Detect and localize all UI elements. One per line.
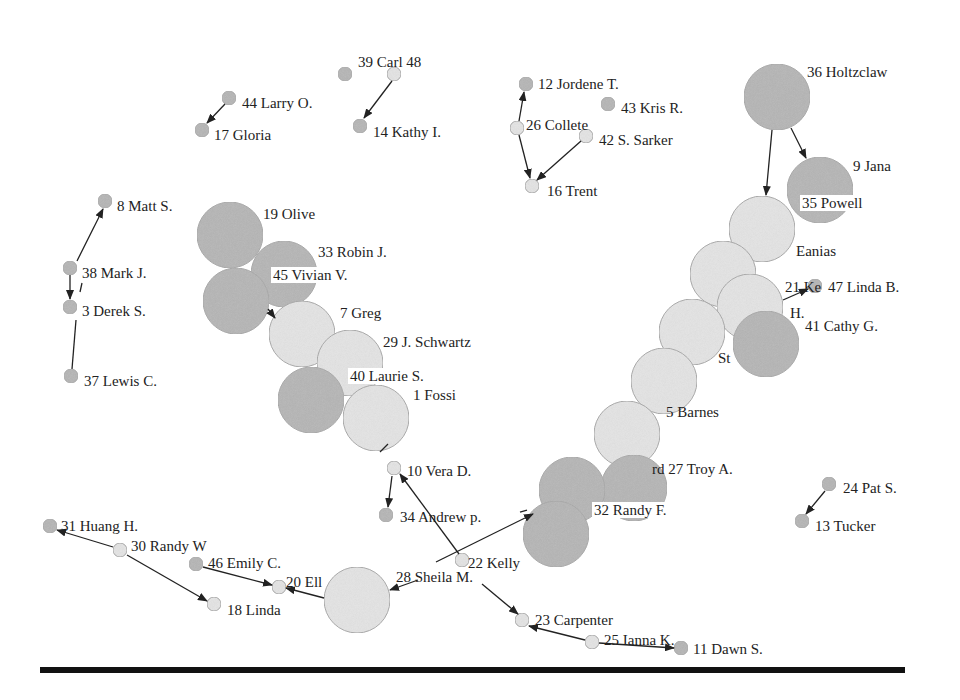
node-label-n17: 17 Gloria (214, 127, 271, 143)
node-circle-n11[interactable] (674, 641, 688, 655)
directed-edge-arrow (806, 491, 825, 514)
node-circle-n14[interactable] (353, 119, 367, 133)
node-label-n29: 29 J. Schwartz (383, 334, 471, 350)
node-label-n47: 47 Linda B. (828, 279, 899, 295)
node-label-nEan: Eanias (796, 243, 836, 259)
node-circle-n31[interactable] (43, 519, 57, 533)
node-label-n46: 46 Emily C. (208, 555, 281, 571)
node-label-n32: 32 Randy F. (594, 502, 667, 518)
node-label-n14: 14 Kathy I. (373, 124, 441, 140)
directed-edge-arrow (207, 104, 225, 123)
node-label-n27: rd 27 Troy A. (652, 461, 733, 477)
directed-edge-arrow (77, 209, 103, 261)
node-circle-n36[interactable] (744, 64, 810, 130)
node-label-n5: 5 Barnes (666, 404, 719, 420)
node-label-n26: 26 Collete (526, 117, 588, 133)
edge-line (520, 510, 527, 512)
directed-edge-arrow (519, 135, 530, 178)
edge-line (80, 283, 82, 292)
node-circle-n12[interactable] (519, 77, 533, 91)
node-circle-n20[interactable] (272, 580, 286, 594)
nodes-layer (43, 64, 853, 655)
node-circle-n8[interactable] (98, 194, 112, 208)
node-label-n7: 7 Greg (340, 305, 382, 321)
node-circle-n10[interactable] (387, 461, 401, 475)
node-label-n36: 36 Holtzclaw (807, 64, 888, 80)
node-label-n42: 42 S. Sarker (599, 132, 673, 148)
directed-edge-arrow (519, 92, 524, 121)
node-circle-n37[interactable] (64, 369, 78, 383)
directed-edge-arrow (529, 626, 585, 640)
node-circle-n26[interactable] (510, 121, 524, 135)
node-circle-n38[interactable] (63, 261, 77, 275)
node-label-n39: 39 Carl 48 (358, 54, 421, 70)
node-label-n16: 16 Trent (547, 183, 598, 199)
node-circle-n45[interactable] (203, 268, 269, 334)
directed-edge-arrow (364, 81, 392, 118)
node-label-n34: 34 Andrew p. (400, 509, 481, 525)
node-label-n12: 12 Jordene T. (538, 76, 619, 92)
node-circle-n23[interactable] (515, 613, 529, 627)
network-diagram-canvas: 39 Carl 4814 Kathy I.44 Larry O.17 Glori… (0, 0, 960, 700)
node-circle-n32[interactable] (523, 501, 589, 567)
directed-edge-arrow (268, 309, 275, 318)
node-label-n35: 35 Powell (802, 195, 862, 211)
node-circle-n25[interactable] (585, 635, 599, 649)
directed-edge-arrow (791, 128, 806, 158)
node-label-n23: 23 Carpenter (535, 612, 613, 628)
node-label-n8: 8 Matt S. (117, 198, 172, 214)
node-circle-n22[interactable] (455, 553, 469, 567)
node-circle-n30[interactable] (113, 543, 127, 557)
node-label-n30: 30 Randy W (131, 538, 207, 554)
node-circle-n9[interactable] (787, 157, 853, 223)
node-circle-n3[interactable] (63, 300, 77, 314)
node-label-n22: 22 Kelly (468, 555, 521, 571)
node-label-n33: 33 Robin J. (318, 244, 387, 260)
node-label-n45: 45 Vivian V. (273, 267, 348, 283)
node-circle-n19[interactable] (197, 202, 263, 268)
node-label-n44: 44 Larry O. (242, 95, 312, 111)
node-circle-n34[interactable] (379, 508, 393, 522)
directed-edge-arrow (482, 584, 518, 614)
node-label-n38: 38 Mark J. (82, 265, 147, 281)
node-label-n13: 13 Tucker (815, 518, 875, 534)
directed-edge-arrow (766, 130, 772, 195)
node-label-nH: H. (790, 305, 805, 321)
node-label-n9: 9 Jana (853, 158, 891, 174)
edge-line (72, 320, 76, 369)
node-circle-n13[interactable] (795, 514, 809, 528)
node-circle-nD[interactable] (278, 367, 344, 433)
node-label-n10: 10 Vera D. (407, 463, 471, 479)
node-circle-n17[interactable] (195, 123, 209, 137)
node-circle-n46[interactable] (189, 557, 203, 571)
node-label-n3: 3 Derek S. (82, 303, 146, 319)
node-label-n21: 21 Ke (785, 279, 822, 295)
network-graph: 39 Carl 4814 Kathy I.44 Larry O.17 Glori… (0, 0, 960, 700)
node-label-n41: 41 Cathy G. (805, 318, 878, 334)
node-circle-n18[interactable] (207, 597, 221, 611)
node-circle-n24[interactable] (822, 477, 836, 491)
node-circle-n16[interactable] (525, 179, 539, 193)
node-label-n31: 31 Huang H. (61, 518, 138, 534)
node-label-n24: 24 Pat S. (843, 480, 897, 496)
directed-edge-arrow (537, 141, 581, 180)
node-label-n1: 1 Fossi (413, 387, 456, 403)
node-circle-n43[interactable] (601, 97, 615, 111)
node-label-n43: 43 Kris R. (621, 100, 683, 116)
directed-edge-arrow (388, 476, 392, 507)
node-label-n20: 20 Ell (286, 574, 322, 590)
node-label-n40: 40 Laurie S. (350, 368, 424, 384)
node-label-nSt: St (718, 350, 731, 366)
node-circle-nE[interactable] (324, 567, 390, 633)
node-label-n18: 18 Linda (227, 602, 281, 618)
edges-layer (57, 81, 825, 648)
node-label-n37: 37 Lewis C. (84, 373, 157, 389)
node-label-n11: 11 Dawn S. (693, 641, 763, 657)
node-circle-n44[interactable] (222, 91, 236, 105)
node-label-n25: 25 Ianna K. (604, 632, 674, 648)
footer-divider-bar (40, 667, 905, 673)
node-circle-n1[interactable] (343, 385, 409, 451)
node-circle-n48[interactable] (338, 67, 352, 81)
node-label-n19: 19 Olive (263, 206, 315, 222)
node-label-n28: 28 Sheila M. (396, 569, 473, 585)
